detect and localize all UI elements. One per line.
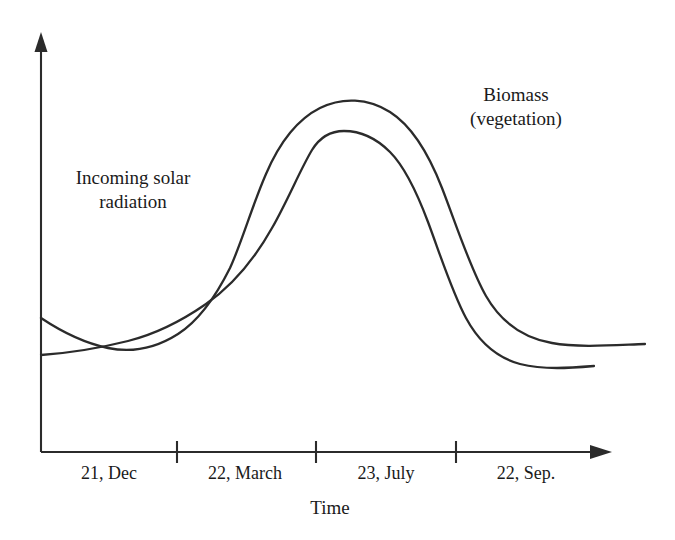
x-tick-label-22-sep: 22, Sep. bbox=[446, 462, 606, 485]
x-tick-label-22-march: 22, March bbox=[165, 462, 325, 485]
series-label-solar-line2: radiation bbox=[44, 190, 222, 214]
arrow-right-icon bbox=[590, 445, 612, 459]
series-label-solar-line1: Incoming solar bbox=[44, 166, 222, 190]
series-label-biomass-line1: Biomass bbox=[430, 83, 602, 107]
x-axis-title: Time bbox=[250, 496, 410, 520]
series-curve-biomass-vegetation bbox=[41, 101, 645, 350]
arrow-up-icon bbox=[35, 32, 48, 52]
x-tick-label-23-july: 23, July bbox=[306, 462, 466, 485]
chart-figure: Incoming solar radiation Biomass (vegeta… bbox=[0, 0, 675, 540]
series-label-incoming-solar-radiation: Incoming solar radiation bbox=[44, 166, 222, 215]
chart-plot-area bbox=[0, 0, 675, 540]
series-label-biomass-line2: (vegetation) bbox=[430, 107, 602, 131]
series-label-biomass-vegetation: Biomass (vegetation) bbox=[430, 83, 602, 132]
